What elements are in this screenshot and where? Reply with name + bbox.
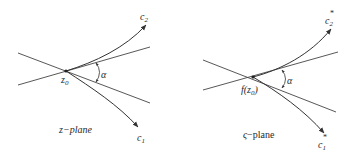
image-angle-alpha-label: α — [287, 75, 293, 86]
curve-c2-label: c2 — [140, 11, 148, 24]
point-z0 — [64, 69, 67, 72]
curve-c2-star — [253, 29, 331, 77]
z-plane-panel: z0 α c2 c1 z−plane — [18, 11, 150, 145]
s-plane-panel: f(z0) α c2 * c1 * ς−plane — [203, 9, 338, 152]
angle-alpha-label: α — [101, 69, 107, 80]
image-tangent-line-1 — [203, 60, 336, 112]
tangent-line-1 — [18, 53, 150, 103]
angle-arc — [96, 63, 100, 82]
curve-c1-label: c1 — [137, 132, 145, 145]
curve-c1-star-superscript: * — [323, 133, 327, 142]
curve-c2-star-superscript: * — [330, 9, 334, 18]
conformal-mapping-diagram: z0 α c2 c1 z−plane f(z0) α c2 * c1 * — [0, 0, 352, 157]
image-angle-arc — [282, 70, 286, 88]
point-f-z0 — [251, 75, 254, 78]
s-plane-label: ς−plane — [243, 129, 275, 140]
tangent-line-2 — [18, 47, 150, 85]
point-z0-label: z0 — [60, 74, 69, 87]
z-plane-label: z−plane — [58, 124, 92, 135]
curve-c2 — [66, 25, 146, 71]
point-f-z0-label: f(z0) — [241, 84, 259, 97]
